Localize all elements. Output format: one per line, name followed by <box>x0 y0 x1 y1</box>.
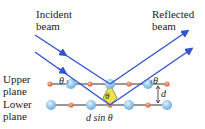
lower-plane-label-line2: plane <box>3 110 32 122</box>
upper-plane-label: Upper plane <box>3 73 31 97</box>
theta-label-triangle: θ <box>105 90 109 102</box>
reflected-label-line1: Reflected <box>152 8 194 20</box>
theta-label-reflected: θ <box>153 75 158 87</box>
upper-plane-label-line1: Upper <box>3 73 31 85</box>
reflected-beam-label: Reflected beam <box>152 8 194 32</box>
lower-plane-label-line1: Lower <box>3 98 32 110</box>
reflected-beam-upper <box>110 32 186 84</box>
d-label: d <box>161 88 166 100</box>
incident-label-line2: beam <box>36 20 72 32</box>
incident-label-line1: Incident <box>36 8 72 20</box>
theta-label-incident: θ <box>59 75 64 87</box>
lower-plane-label: Lower plane <box>3 98 32 122</box>
upper-plane-label-line2: plane <box>3 85 31 97</box>
reflected-beam-lower <box>110 50 190 105</box>
incident-beam-label: Incident beam <box>36 8 72 32</box>
d-sin-theta-label: d sin θ <box>86 112 113 124</box>
reflected-label-line2: beam <box>152 20 194 32</box>
